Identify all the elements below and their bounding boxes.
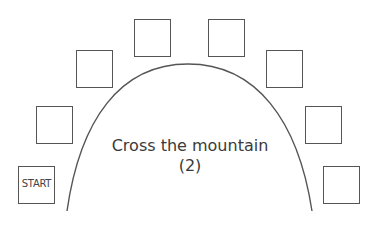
start-label: START — [19, 178, 54, 189]
step-box-left-3 — [134, 19, 171, 57]
step-box-left-1 — [36, 106, 73, 144]
step-box-right-3 — [208, 19, 245, 57]
step-box-left-2 — [76, 50, 113, 88]
title-line-1: Cross the mountain — [110, 136, 270, 156]
diagram-title: Cross the mountain (2) — [110, 136, 270, 176]
title-line-2: (2) — [110, 156, 270, 176]
start-box: START — [18, 166, 55, 204]
step-box-right-0 — [323, 166, 360, 204]
step-box-right-2 — [266, 50, 303, 88]
step-box-right-1 — [305, 106, 342, 144]
